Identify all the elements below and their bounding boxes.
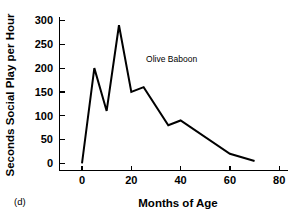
chart-figure: Seconds Social Play per Hour 300 250 200… [0, 0, 306, 223]
y-tick-label-300: 300 [35, 14, 53, 26]
y-tick-label-200: 200 [35, 62, 53, 74]
y-axis-title: Seconds Social Play per Hour [4, 13, 16, 176]
y-tick-label-50: 50 [41, 133, 53, 145]
x-tick-label-80: 80 [273, 174, 285, 186]
x-axis-title: Months of Age [138, 197, 217, 209]
y-tick-label-150: 150 [35, 86, 53, 98]
line-chart: Seconds Social Play per Hour 300 250 200… [0, 0, 306, 223]
series-annotation-label: Olive Baboon [146, 54, 197, 64]
x-tick-label-20: 20 [125, 174, 137, 186]
x-tick-label-0: 0 [79, 174, 85, 186]
x-tick-label-40: 40 [174, 174, 186, 186]
x-tick-label-60: 60 [224, 174, 236, 186]
data-series-line [82, 25, 255, 163]
y-tick-label-250: 250 [35, 38, 53, 50]
panel-label: (d) [14, 196, 26, 207]
y-tick-label-0: 0 [47, 157, 53, 169]
y-tick-label-100: 100 [35, 110, 53, 122]
